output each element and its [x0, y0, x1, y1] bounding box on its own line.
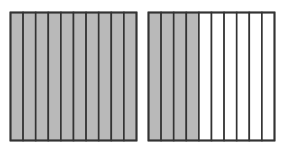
- shaded-strip: [149, 13, 162, 141]
- shaded-strip: [124, 13, 137, 141]
- shaded-strip: [161, 13, 174, 141]
- shaded-strip: [86, 13, 99, 141]
- shaded-strip: [48, 13, 61, 141]
- unshaded-strip: [199, 13, 212, 141]
- unshaded-strip: [212, 13, 225, 141]
- shaded-strip: [186, 13, 199, 141]
- shaded-strip: [111, 13, 124, 141]
- shaded-strip: [11, 13, 24, 141]
- shaded-strip: [23, 13, 36, 141]
- fraction-diagram: [0, 0, 286, 146]
- unshaded-strip: [237, 13, 250, 141]
- unshaded-strip: [249, 13, 262, 141]
- left-square: [11, 13, 137, 141]
- unshaded-strip: [262, 13, 275, 141]
- shaded-strip: [36, 13, 49, 141]
- unshaded-strip: [224, 13, 237, 141]
- right-square: [149, 13, 275, 141]
- shaded-strip: [99, 13, 112, 141]
- shaded-strip: [174, 13, 187, 141]
- shaded-strip: [61, 13, 74, 141]
- shaded-strip: [74, 13, 87, 141]
